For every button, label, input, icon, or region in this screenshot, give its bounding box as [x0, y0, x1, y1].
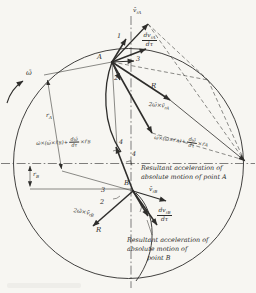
construction-point-2a: 2	[114, 75, 118, 82]
caption-b-line2: absolute motion of	[127, 245, 208, 254]
ra-dimension-line	[48, 80, 62, 169]
dvrb-denominator: dτ	[161, 216, 168, 222]
curvature-radius-a-label: R	[151, 83, 156, 90]
construction-point-4b: 4	[132, 151, 136, 158]
faint-print-artifact	[7, 283, 81, 288]
rb-label: rB	[33, 171, 39, 179]
dvra-fraction: dvrA dτ	[142, 32, 157, 47]
caption-a-line2: absolute motion of point A	[141, 173, 227, 182]
coriolis-b-vector	[93, 191, 133, 226]
kinematics-figure: v̄rA 1 dvrA dτ A 3 ω̄ 2 R 2ω̄×v̄rA rA ω̄…	[0, 0, 256, 293]
point-4-construction	[113, 147, 133, 191]
point-a-dot	[111, 61, 113, 63]
caption-a: Resultant acceleration of absolute motio…	[141, 164, 227, 182]
extension-to-b	[62, 171, 133, 191]
construction-point-4a: 4	[119, 139, 123, 146]
dvra-denominator: dτ	[146, 41, 153, 47]
vrb-label: v̄rB	[149, 186, 157, 194]
dvra-vector	[112, 49, 146, 62]
point-a-label: A	[97, 54, 102, 61]
caption-a-line1: Resultant acceleration of	[141, 164, 227, 173]
vra-label: v̄rA	[133, 7, 141, 15]
curvature-radius-b-label: R	[96, 227, 101, 234]
omega-rotation-arrow	[7, 81, 23, 103]
point-b-label: B	[124, 180, 129, 187]
resultant-a-vector	[170, 100, 245, 161]
vra-sub: rA	[136, 10, 141, 15]
angle-arc-2	[113, 196, 120, 199]
dvrb-vector	[133, 191, 157, 225]
caption-b: Resultant acceleration of absolute motio…	[127, 236, 208, 263]
extension-line-a	[44, 62, 112, 75]
omega-label: ω̄	[26, 70, 32, 77]
transport-b-label: ω̄×(ω̄×r̄B)+dω̄dτ×r̄B	[36, 136, 91, 149]
caption-b-line1: Resultant acceleration of	[127, 236, 208, 245]
construction-point-1: 1	[117, 33, 121, 40]
construction-point-3a: 3	[136, 56, 140, 63]
construction-point-2b: 2	[100, 199, 104, 206]
dvrb-fraction: dvrB dτ	[157, 207, 172, 222]
point-b-dot	[132, 190, 134, 192]
ra-label: rA	[46, 112, 52, 120]
caption-b-line3: point B	[147, 254, 208, 263]
point-a-vectors	[112, 24, 170, 133]
transport-a-vector	[112, 62, 152, 133]
construction-point-3b: 3	[101, 187, 105, 194]
